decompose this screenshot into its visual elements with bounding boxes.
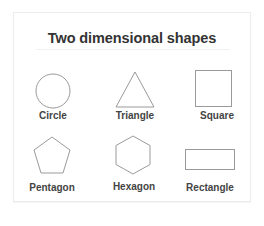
rectangle-label: Rectangle — [170, 182, 250, 193]
square-label: Square — [177, 110, 257, 121]
hexagon-label: Hexagon — [94, 181, 174, 192]
pentagon-label: Pentagon — [12, 182, 92, 193]
triangle-shape — [116, 72, 154, 107]
circle-shape — [36, 74, 70, 108]
circle-label: Circle — [13, 110, 93, 121]
triangle-label: Triangle — [95, 110, 175, 121]
hexagon-shape — [116, 136, 150, 174]
pentagon-shape — [34, 137, 70, 173]
square-shape — [196, 71, 232, 107]
rectangle-shape — [186, 150, 235, 170]
